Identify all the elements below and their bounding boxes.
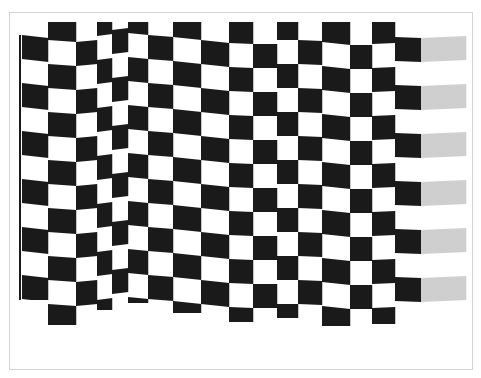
flag-cell-black bbox=[112, 76, 129, 102]
flag-cell-black bbox=[277, 208, 299, 232]
flag-cell-black bbox=[253, 284, 278, 308]
flag-cell-black bbox=[97, 106, 113, 132]
flag-column bbox=[253, 44, 278, 356]
flag-column bbox=[350, 45, 373, 357]
flag-cell-black bbox=[97, 202, 113, 228]
flag-cell-black bbox=[322, 306, 351, 333]
flag-cell-black bbox=[112, 28, 129, 54]
flag-cell-black bbox=[112, 220, 129, 246]
flag-cell-black bbox=[201, 136, 230, 163]
flag-cell-black bbox=[277, 16, 299, 40]
flag-cell-black bbox=[48, 112, 77, 138]
flag-column bbox=[22, 35, 49, 350]
flag-cell-black bbox=[128, 153, 149, 179]
flag-cell-black bbox=[148, 275, 174, 301]
flag-cell-black bbox=[229, 307, 254, 332]
flag-column bbox=[148, 35, 174, 349]
flag-column bbox=[421, 36, 467, 350]
flag-cell-black bbox=[76, 40, 98, 66]
flag-cell-black bbox=[22, 83, 49, 110]
flag-cell-black bbox=[372, 307, 396, 332]
flag-cell-black bbox=[173, 205, 202, 232]
flag-cell-black bbox=[322, 210, 351, 237]
flag-cell-black bbox=[173, 61, 202, 88]
flag-pole bbox=[19, 35, 21, 300]
flag-cell-black bbox=[395, 37, 422, 62]
flag-cell-black bbox=[22, 323, 49, 350]
flag-cell-black bbox=[298, 328, 323, 353]
flag-cell-black bbox=[148, 131, 174, 157]
flag-cell-black bbox=[76, 184, 98, 210]
flag-cell-black bbox=[322, 258, 351, 285]
flag-column bbox=[76, 40, 98, 354]
flag-cell-black bbox=[350, 285, 373, 309]
flag-cell-black bbox=[298, 184, 323, 209]
checkered-flag bbox=[0, 0, 481, 378]
flag-cell-black bbox=[128, 249, 149, 275]
flag-cell-black bbox=[148, 227, 174, 253]
flag-column bbox=[48, 16, 77, 330]
flag-column bbox=[229, 19, 254, 332]
flag-cell-black bbox=[148, 179, 174, 205]
flag-cell-black bbox=[277, 160, 299, 184]
flag-cell-black bbox=[253, 236, 278, 260]
flag-column bbox=[372, 19, 396, 332]
flag-cell-black bbox=[372, 67, 396, 92]
flag-cell-black bbox=[48, 64, 77, 90]
flag-cell-gray bbox=[421, 36, 467, 62]
flag-cell-black bbox=[112, 172, 129, 198]
flag-cell-black bbox=[173, 109, 202, 136]
flag-cell-black bbox=[201, 88, 230, 115]
flag-column bbox=[395, 37, 422, 350]
flag-column bbox=[322, 18, 351, 333]
flag-column bbox=[277, 16, 299, 328]
flag-cell-black bbox=[277, 256, 299, 280]
flag-cell-black bbox=[395, 133, 422, 158]
flag-cell-black bbox=[372, 211, 396, 236]
flag-cell-gray bbox=[421, 228, 467, 254]
flag-cell-black bbox=[395, 85, 422, 110]
flag-cell-black bbox=[128, 105, 149, 131]
flag-cell-black bbox=[201, 184, 230, 211]
flag-cell-black bbox=[395, 325, 422, 350]
flag-cell-black bbox=[229, 211, 254, 236]
flag-column bbox=[128, 9, 149, 323]
flag-cell-black bbox=[97, 154, 113, 180]
flag-cell-black bbox=[253, 188, 278, 212]
flag-cell-black bbox=[148, 323, 174, 349]
flag-cell-black bbox=[48, 160, 77, 186]
flag-cell-black bbox=[350, 45, 373, 69]
flag-cell-black bbox=[298, 280, 323, 305]
flag-cell-black bbox=[201, 40, 230, 67]
flag-cell-black bbox=[277, 64, 299, 88]
flag-cell-black bbox=[298, 232, 323, 257]
flag-cell-black bbox=[112, 268, 129, 294]
flag-cell-gray bbox=[421, 324, 467, 350]
flag-column bbox=[201, 40, 230, 355]
flag-cell-black bbox=[229, 19, 254, 44]
flag-cell-black bbox=[148, 35, 174, 61]
flag-cell-black bbox=[48, 256, 77, 282]
flag-cell-black bbox=[128, 9, 149, 35]
flag-cell-black bbox=[298, 88, 323, 113]
flag-cell-black bbox=[76, 88, 98, 114]
flag-cell-black bbox=[350, 237, 373, 261]
flag-cell-black bbox=[173, 301, 202, 328]
flag-cell-black bbox=[395, 229, 422, 254]
flag-cell-black bbox=[253, 140, 278, 164]
flag-cell-black bbox=[277, 304, 299, 328]
flag-cell-black bbox=[22, 227, 49, 254]
flag-cell-gray bbox=[421, 276, 467, 302]
flag-cell-black bbox=[322, 114, 351, 141]
flag-cell-black bbox=[76, 136, 98, 162]
flag-cell-black bbox=[350, 189, 373, 213]
flag-cell-black bbox=[48, 208, 77, 234]
flag-cell-black bbox=[372, 19, 396, 44]
flag-cell-black bbox=[112, 124, 129, 150]
flag-cell-black bbox=[76, 328, 98, 354]
flag-cell-black bbox=[76, 232, 98, 258]
flag-cell-black bbox=[97, 58, 113, 84]
flag-cell-gray bbox=[421, 132, 467, 158]
flag-cell-black bbox=[372, 259, 396, 284]
flag-cell-black bbox=[229, 163, 254, 188]
